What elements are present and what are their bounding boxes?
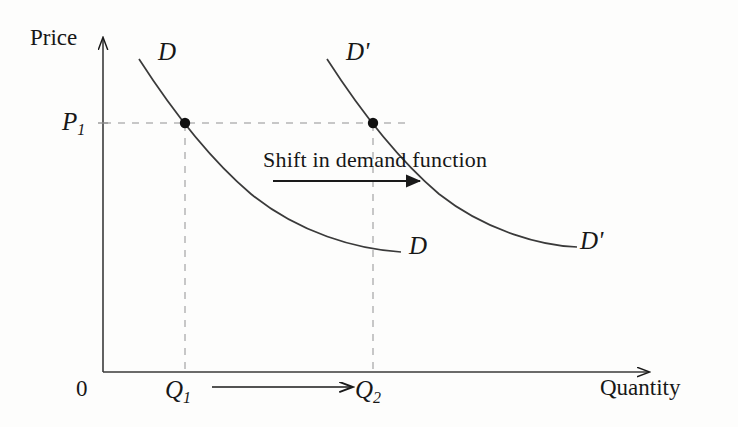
equilibrium-point-shifted bbox=[368, 118, 378, 128]
diagram-canvas bbox=[0, 0, 738, 427]
demand-curve-shifted-label-top: D' bbox=[346, 39, 369, 64]
origin-label: 0 bbox=[76, 377, 88, 400]
quantity2-subscript: 2 bbox=[373, 389, 381, 406]
shift-annotation-text: Shift in demand function bbox=[263, 149, 487, 171]
equilibrium-point-original bbox=[180, 118, 190, 128]
price-level-label: P1 bbox=[62, 109, 85, 134]
quantity1-subscript: 1 bbox=[183, 389, 191, 406]
y-axis-title: Price bbox=[30, 26, 77, 49]
demand-curve-original-label-bottom: D bbox=[409, 233, 427, 258]
quantity2-label: Q2 bbox=[355, 377, 381, 402]
quantity1-symbol: Q bbox=[165, 376, 183, 403]
price-level-symbol: P bbox=[62, 108, 77, 135]
demand-curve-original-label-top: D bbox=[158, 39, 176, 64]
x-axis-title: Quantity bbox=[600, 376, 681, 399]
price-level-subscript: 1 bbox=[77, 121, 85, 138]
demand-shift-figure: Price Quantity 0 P1 Q1 Q2 D D D' D' Shif… bbox=[0, 0, 738, 427]
demand-curve-shifted-label-bottom: D' bbox=[580, 228, 603, 253]
quantity1-label: Q1 bbox=[165, 377, 191, 402]
quantity2-symbol: Q bbox=[355, 376, 373, 403]
